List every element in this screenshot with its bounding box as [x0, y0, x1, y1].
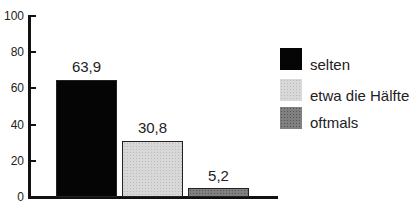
legend-swatch-etwa-die-haelfte — [280, 79, 302, 101]
y-tick-label: 40 — [2, 119, 24, 131]
y-tick-label: 60 — [2, 82, 24, 94]
y-tick-60 — [31, 87, 36, 89]
legend-swatch-oftmals — [280, 107, 302, 129]
y-tick-100 — [31, 15, 36, 17]
legend-label-selten: selten — [310, 56, 350, 73]
legend-swatch-selten — [280, 48, 302, 70]
legend-label-etwa-die-haelfte: etwa die Hälfte — [310, 87, 409, 104]
y-tick-label: 80 — [2, 46, 24, 58]
bar-etwa-die-haelfte — [122, 141, 183, 197]
y-tick-80 — [31, 51, 36, 53]
value-label-etwa-die-haelfte: 30,8 — [122, 119, 183, 136]
value-label-oftmals: 5,2 — [188, 167, 249, 184]
y-axis — [28, 15, 31, 198]
y-tick-40 — [31, 124, 36, 126]
y-tick-label: 20 — [2, 155, 24, 167]
y-tick-label: 0 — [2, 191, 24, 203]
y-tick-20 — [31, 160, 36, 162]
legend-label-oftmals: oftmals — [310, 114, 358, 131]
value-label-selten: 63,9 — [56, 58, 117, 75]
bar-selten — [56, 80, 117, 197]
bar-oftmals — [188, 188, 249, 197]
y-tick-label: 100 — [2, 10, 24, 22]
